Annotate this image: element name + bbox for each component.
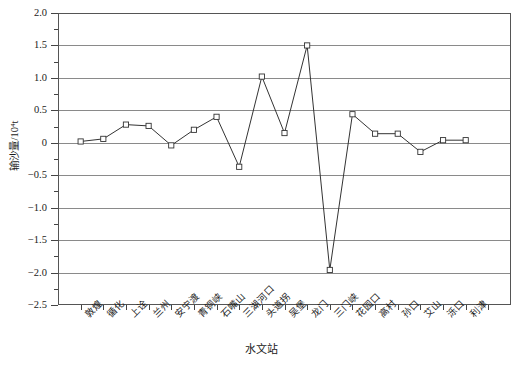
y-tick-minor: [54, 94, 58, 95]
x-tick: [103, 305, 104, 310]
x-tick: [285, 305, 286, 310]
y-tick-minor: [54, 29, 58, 30]
gridline: [59, 143, 510, 144]
y-tick-label: −2.0: [28, 268, 47, 278]
y-tick-minor: [54, 224, 58, 225]
y-tick-label: −1.0: [28, 203, 47, 213]
x-tick: [149, 305, 150, 310]
y-tick-minor: [54, 289, 58, 290]
x-axis-title: 水文站: [0, 340, 522, 356]
x-tick: [81, 305, 82, 310]
gridline: [59, 175, 510, 176]
gridline: [59, 78, 510, 79]
y-tick-label: 2.0: [34, 8, 47, 18]
gridline: [59, 208, 510, 209]
y-tick-label: 0.5: [34, 105, 47, 115]
gridline: [59, 273, 510, 274]
y-tick: [51, 305, 58, 306]
y-tick: [51, 13, 58, 14]
y-tick: [51, 240, 58, 241]
y-tick: [51, 45, 58, 46]
y-tick-minor: [54, 191, 58, 192]
x-tick: [330, 305, 331, 310]
y-tick-label: 1.5: [34, 40, 47, 50]
gridline: [59, 45, 510, 46]
y-tick: [51, 273, 58, 274]
y-tick-minor: [54, 127, 58, 128]
x-tick: [443, 305, 444, 310]
x-tick: [420, 305, 421, 310]
y-tick-minor: [54, 62, 58, 63]
y-tick-label: 1.0: [34, 73, 47, 83]
chart-page: 2.01.51.00.50−0.5−1.0−1.5−2.0−2.5 输沙量/10…: [0, 0, 522, 365]
y-tick: [51, 143, 58, 144]
x-tick: [488, 305, 489, 310]
y-tick-label: −1.5: [28, 235, 47, 245]
x-tick: [217, 305, 218, 310]
x-tick: [262, 305, 263, 310]
gridline: [59, 240, 510, 241]
x-tick: [194, 305, 195, 310]
x-tick: [126, 305, 127, 310]
y-tick-label: −2.5: [28, 300, 47, 310]
gridline: [59, 110, 510, 111]
y-tick-label: 0: [42, 138, 47, 148]
y-tick: [51, 208, 58, 209]
y-tick: [51, 175, 58, 176]
y-tick-minor: [54, 256, 58, 257]
y-tick-label: −0.5: [28, 170, 47, 180]
y-tick: [51, 110, 58, 111]
x-tick: [239, 305, 240, 310]
x-tick: [398, 305, 399, 310]
x-tick: [375, 305, 376, 310]
x-tick: [171, 305, 172, 310]
x-tick: [307, 305, 308, 310]
x-tick: [352, 305, 353, 310]
plot-area: [58, 13, 511, 305]
y-axis-title: 输沙量/10⁴t: [6, 101, 21, 191]
y-tick: [51, 78, 58, 79]
y-tick-minor: [54, 159, 58, 160]
x-tick: [466, 305, 467, 310]
